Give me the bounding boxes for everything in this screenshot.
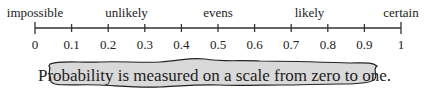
tick-label: 0.5 — [210, 37, 226, 53]
tick-label: 0.6 — [246, 37, 262, 53]
tick-label: 0.8 — [320, 37, 336, 53]
scale-label-certain: certain — [383, 5, 418, 21]
caption-text: Probability is measured on a scale from … — [0, 66, 429, 86]
tick-label: 0.1 — [63, 37, 79, 53]
tick-label: 0.4 — [173, 37, 189, 53]
tick-label: 0.7 — [283, 37, 299, 53]
scale-label-impossible: impossible — [7, 5, 63, 21]
tick-label: 0.9 — [356, 37, 372, 53]
tick-label: 0 — [32, 37, 39, 53]
scale-label-likely: likely — [295, 5, 325, 21]
scale-label-unlikely: unlikely — [105, 5, 148, 21]
tick-label: 0.3 — [137, 37, 153, 53]
tick-label: 0.2 — [100, 37, 116, 53]
tick-label: 1 — [398, 37, 405, 53]
scale-label-evens: evens — [203, 5, 233, 21]
probability-scale-diagram: impossibleunlikelyevenslikelycertain 00.… — [0, 0, 429, 104]
